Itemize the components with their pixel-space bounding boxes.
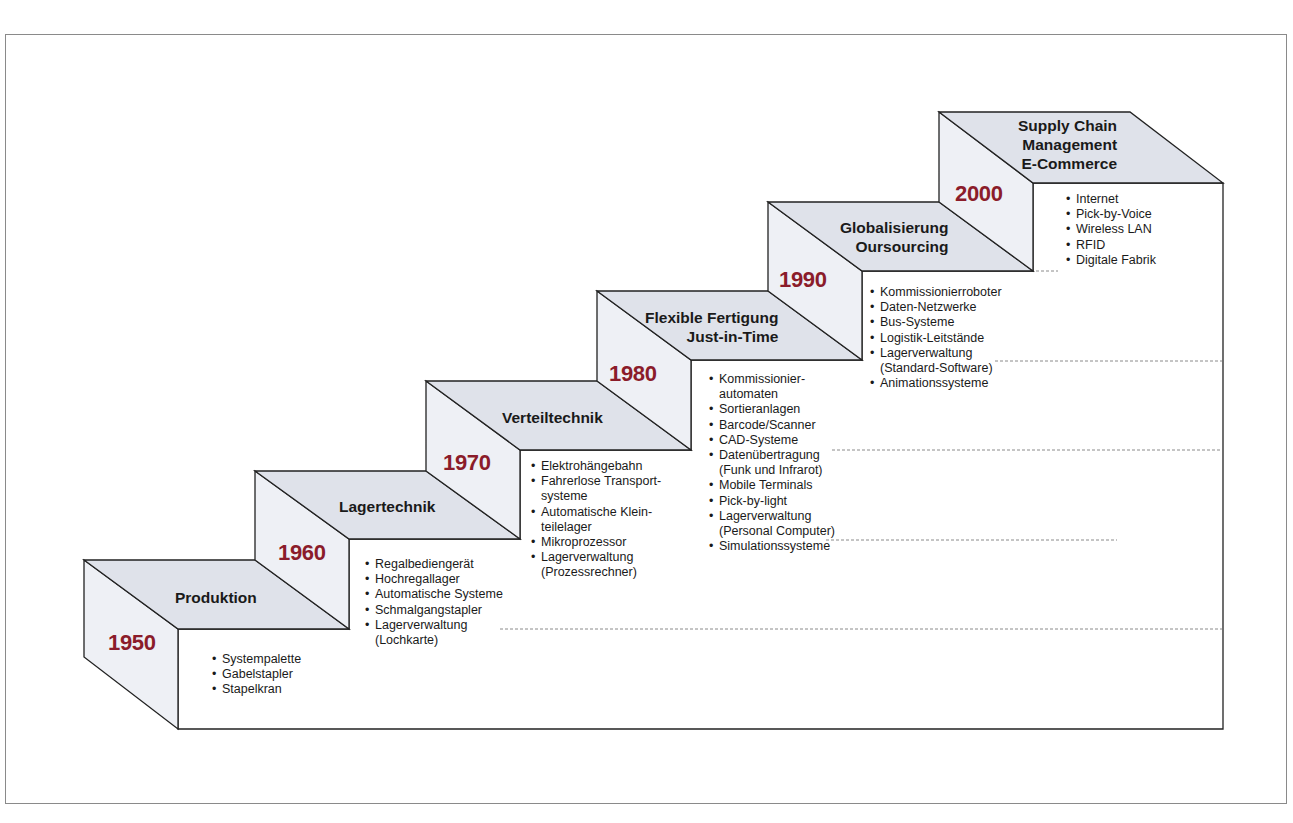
year-label-1990: 1990 bbox=[779, 267, 827, 293]
list-item: RFID bbox=[1066, 238, 1156, 253]
list-item: Lagerverwaltung(Lochkarte) bbox=[365, 618, 503, 648]
list-item: CAD-Systeme bbox=[709, 433, 835, 448]
list-item: Lagerverwaltung(Standard-Software) bbox=[870, 346, 1002, 376]
list-item: Internet bbox=[1066, 192, 1156, 207]
list-item: Lagerverwaltung(Personal Computer) bbox=[709, 509, 835, 539]
year-label-1960: 1960 bbox=[278, 540, 326, 566]
list-item: Gabelstapler bbox=[212, 667, 301, 682]
list-item: Hochregallager bbox=[365, 572, 503, 587]
item-list-1980: Kommissionier-automaten Sortieranlagen B… bbox=[709, 372, 835, 554]
list-item: Mikroprozessor bbox=[531, 535, 661, 550]
list-item: Pick-by-light bbox=[709, 494, 835, 509]
list-item: Pick-by-Voice bbox=[1066, 207, 1156, 222]
list-item: Simulationssysteme bbox=[709, 539, 835, 554]
step-title-1970: Verteiltechnik bbox=[502, 408, 603, 427]
list-item: Lagerverwaltung(Prozessrechner) bbox=[531, 550, 661, 580]
list-item: Bus-Systeme bbox=[870, 315, 1002, 330]
item-list-1950: Systempalette Gabelstapler Stapelkran bbox=[212, 652, 301, 698]
list-item: Schmalgangstapler bbox=[365, 603, 503, 618]
step-title-1960: Lagertechnik bbox=[339, 497, 435, 516]
list-item: Sortieranlagen bbox=[709, 402, 835, 417]
year-label-1950: 1950 bbox=[108, 630, 156, 656]
list-item: Barcode/Scanner bbox=[709, 418, 835, 433]
list-item: Logistik-Leitstände bbox=[870, 331, 1002, 346]
year-label-2000: 2000 bbox=[955, 181, 1003, 207]
item-list-1990: Kommissionierroboter Daten-Netzwerke Bus… bbox=[870, 285, 1002, 391]
list-item: Digitale Fabrik bbox=[1066, 253, 1156, 268]
year-label-1980: 1980 bbox=[609, 361, 657, 387]
list-item: Kommissionier-automaten bbox=[709, 372, 835, 402]
list-item: Kommissionierroboter bbox=[870, 285, 1002, 300]
list-item: Elektrohängebahn bbox=[531, 459, 661, 474]
item-list-1970: Elektrohängebahn Fahrerlose Transport-sy… bbox=[531, 459, 661, 581]
step-title-1990: Globalisierung Oursourcing bbox=[840, 218, 949, 256]
item-list-2000: Internet Pick-by-Voice Wireless LAN RFID… bbox=[1066, 192, 1156, 268]
list-item: Stapelkran bbox=[212, 682, 301, 697]
item-list-1960: Regalbediengerät Hochregallager Automati… bbox=[365, 557, 503, 648]
list-item: Datenübertragung(Funk und Infrarot) bbox=[709, 448, 835, 478]
step-title-1950: Produktion bbox=[175, 588, 257, 607]
list-item: Automatische Systeme bbox=[365, 587, 503, 602]
list-item: Animationssysteme bbox=[870, 376, 1002, 391]
list-item: Mobile Terminals bbox=[709, 478, 835, 493]
step-title-1980: Flexible Fertigung Just-in-Time bbox=[645, 308, 778, 346]
list-item: Regalbediengerät bbox=[365, 557, 503, 572]
list-item: Daten-Netzwerke bbox=[870, 300, 1002, 315]
step-title-2000: Supply Chain Management E-Commerce bbox=[1018, 116, 1117, 173]
list-item: Automatische Klein-teilelager bbox=[531, 505, 661, 535]
list-item: Fahrerlose Transport-systeme bbox=[531, 474, 661, 504]
year-label-1970: 1970 bbox=[443, 450, 491, 476]
list-item: Systempalette bbox=[212, 652, 301, 667]
list-item: Wireless LAN bbox=[1066, 222, 1156, 237]
